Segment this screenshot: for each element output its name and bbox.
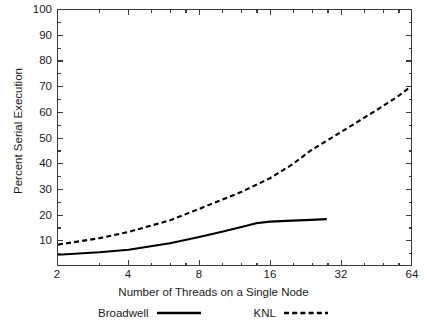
tick-mark — [398, 9, 399, 13]
tick-mark — [170, 263, 171, 267]
tick-mark — [341, 9, 342, 15]
tick-mark — [409, 48, 413, 49]
tick-mark — [57, 22, 61, 23]
tick-mark — [57, 176, 61, 177]
tick-mark — [406, 86, 412, 87]
x-tick-label-text: 8 — [196, 268, 202, 280]
tick-mark — [270, 260, 271, 266]
dashed-line-swatch — [283, 308, 329, 318]
tick-mark — [57, 99, 61, 100]
y-tick-label-text: 20 — [39, 209, 52, 221]
tick-mark — [312, 9, 313, 13]
tick-mark — [57, 73, 61, 74]
x-tick-label-text: 64 — [406, 268, 419, 280]
tick-mark — [151, 263, 152, 267]
y-tick-label-text: 80 — [39, 54, 52, 66]
tick-mark — [327, 9, 328, 13]
tick-mark — [406, 138, 412, 139]
legend-label-broadwell: Broadwell — [98, 307, 149, 319]
plot-area — [58, 10, 411, 265]
tick-mark — [383, 9, 384, 13]
tick-mark — [57, 253, 61, 254]
solid-line-swatch — [156, 308, 202, 318]
tick-mark — [364, 263, 365, 267]
tick-mark — [409, 202, 413, 203]
tick-mark — [406, 189, 412, 190]
tick-mark — [170, 9, 171, 13]
tick-mark — [406, 163, 412, 164]
x-tick-label-text: 4 — [125, 268, 131, 280]
tick-mark — [57, 163, 63, 164]
tick-mark — [57, 48, 61, 49]
tick-mark — [341, 260, 342, 266]
tick-mark — [199, 260, 200, 266]
tick-mark — [57, 35, 63, 36]
tick-mark — [406, 240, 412, 241]
tick-mark — [128, 9, 129, 15]
tick-mark — [57, 150, 61, 151]
series-line-knl — [58, 87, 411, 245]
tick-mark — [99, 9, 100, 13]
y-tick-label-text: 100 — [33, 3, 52, 15]
tick-mark — [406, 35, 412, 36]
tick-mark — [409, 22, 413, 23]
y-axis-title: Percent Serial Execution — [12, 41, 24, 221]
tick-mark — [222, 9, 223, 13]
tick-mark — [57, 138, 63, 139]
tick-mark — [406, 60, 412, 61]
tick-mark — [327, 263, 328, 267]
tick-mark — [57, 86, 63, 87]
tick-mark — [57, 189, 63, 190]
tick-mark — [312, 263, 313, 267]
legend-label-knl: KNL — [254, 307, 276, 319]
legend-item-knl: KNL — [254, 307, 329, 319]
tick-mark — [57, 240, 63, 241]
x-axis-title: Number of Threads on a Single Node — [0, 286, 427, 298]
y-tick-label-text: 70 — [39, 80, 52, 92]
tick-mark — [241, 9, 242, 13]
tick-mark — [256, 263, 257, 267]
x-tick-label-text: 32 — [335, 268, 348, 280]
series-canvas — [58, 10, 411, 265]
tick-mark — [128, 260, 129, 266]
tick-mark — [57, 227, 61, 228]
tick-mark — [256, 9, 257, 13]
y-tick-label-text: 30 — [39, 183, 52, 195]
legend-item-broadwell: Broadwell — [98, 307, 202, 319]
tick-mark — [293, 263, 294, 267]
plot-frame — [57, 9, 412, 266]
tick-mark — [270, 9, 271, 15]
tick-mark — [409, 227, 413, 228]
tick-mark — [409, 176, 413, 177]
y-tick-label-text: 10 — [39, 234, 52, 246]
tick-mark — [151, 9, 152, 13]
tick-mark — [398, 263, 399, 267]
x-tick-label-text: 2 — [54, 268, 60, 280]
tick-mark — [222, 263, 223, 267]
x-tick-label-text: 16 — [264, 268, 277, 280]
tick-mark — [409, 125, 413, 126]
y-tick-label-text: 60 — [39, 106, 52, 118]
tick-mark — [57, 215, 63, 216]
tick-mark — [293, 9, 294, 13]
tick-mark — [57, 202, 61, 203]
series-line-broadwell — [58, 219, 327, 255]
tick-mark — [409, 99, 413, 100]
y-tick-label-text: 40 — [39, 157, 52, 169]
tick-mark — [406, 112, 412, 113]
y-tick-label-text: 90 — [39, 29, 52, 41]
y-tick-label-text: 50 — [39, 132, 52, 144]
tick-mark — [409, 253, 413, 254]
tick-mark — [364, 9, 365, 13]
tick-mark — [409, 150, 413, 151]
tick-mark — [57, 60, 63, 61]
tick-mark — [241, 263, 242, 267]
chart-legend: Broadwell KNL — [0, 304, 427, 322]
tick-mark — [406, 215, 412, 216]
chart-root: Percent Serial Execution 102030405060708… — [0, 0, 427, 324]
tick-mark — [57, 125, 61, 126]
tick-mark — [199, 9, 200, 15]
tick-mark — [57, 112, 63, 113]
tick-mark — [383, 263, 384, 267]
tick-mark — [185, 263, 186, 267]
